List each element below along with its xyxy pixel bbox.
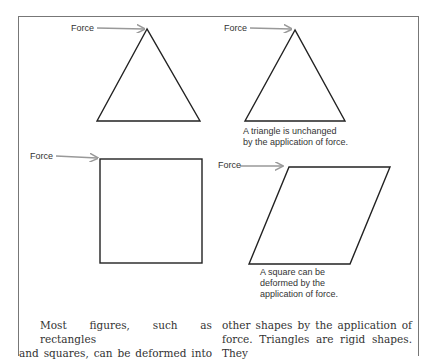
- body-text-line: force. Triangles are rigid shapes. They: [222, 332, 412, 360]
- force-label: Force: [218, 160, 241, 171]
- triangle-caption: A triangle is unchanged by the applicati…: [243, 126, 348, 148]
- force-arrow-icon: [250, 28, 291, 29]
- caption-line: A triangle is unchanged: [243, 126, 348, 137]
- body-text-line: and squares, can be deformed into: [19, 346, 212, 360]
- caption-line: by the application of force.: [243, 137, 348, 148]
- triangle-after-shape: [245, 30, 345, 121]
- body-text-line: other shapes by the application of: [222, 318, 412, 332]
- body-text-right-column: other shapes by the application of force…: [222, 318, 412, 360]
- force-arrow-icon: [97, 28, 144, 29]
- caption-line: deformed by the: [260, 278, 338, 289]
- square-before-shape: [100, 159, 202, 263]
- caption-line: application of force.: [260, 289, 338, 300]
- caption-line: A square can be: [260, 267, 338, 278]
- force-label: Force: [30, 151, 53, 162]
- triangle-before-shape: [97, 29, 200, 121]
- force-label: Force: [71, 23, 94, 34]
- body-text-left-column: Most figures, such as rectangles and squ…: [40, 318, 212, 360]
- force-arrow-icon: [56, 156, 97, 158]
- force-label: Force: [224, 23, 247, 34]
- square-caption: A square can be deformed by the applicat…: [260, 267, 338, 300]
- square-after-shape: [249, 167, 390, 264]
- body-text-line: Most figures, such as rectangles: [40, 318, 212, 346]
